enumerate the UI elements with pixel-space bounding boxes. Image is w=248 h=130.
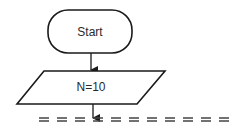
input-label: N=10 bbox=[76, 80, 105, 94]
start-node: Start bbox=[48, 10, 132, 53]
input-node: N=10 bbox=[17, 71, 165, 104]
dashed-break-line bbox=[39, 118, 234, 121]
flowchart: Start N=10 bbox=[0, 0, 248, 130]
start-label: Start bbox=[77, 25, 103, 39]
